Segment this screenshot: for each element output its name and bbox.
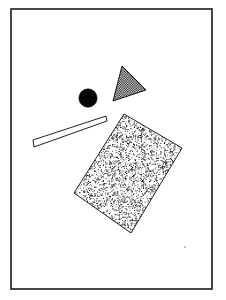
solid-circle [79, 89, 97, 107]
stray-speck [184, 246, 186, 248]
shapes-figure-svg [0, 0, 226, 300]
figure-canvas: Abstract shapes figure 5 shapes Checkere… [0, 0, 226, 300]
